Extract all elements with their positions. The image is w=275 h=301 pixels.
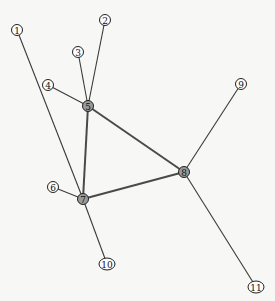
- node-label: 9: [238, 80, 244, 90]
- edge-3-5: [78, 52, 88, 106]
- node-label: 2: [102, 16, 108, 26]
- node-8: 8: [179, 167, 190, 178]
- node-label: 10: [101, 260, 113, 270]
- edge-5-7: [83, 106, 88, 199]
- node-11: 11: [248, 281, 264, 293]
- node-10: 10: [99, 258, 115, 270]
- node-label: 4: [45, 81, 51, 91]
- network-graph: 1234567891011: [0, 0, 275, 301]
- edge-8-9: [184, 84, 241, 172]
- node-layer: 1234567891011: [12, 15, 265, 294]
- node-1: 1: [12, 25, 23, 36]
- edge-layer: [17, 20, 256, 287]
- node-2: 2: [100, 15, 111, 26]
- node-9: 9: [236, 79, 247, 90]
- edge-2-5: [88, 20, 105, 106]
- edge-4-5: [48, 85, 88, 106]
- node-label: 7: [80, 195, 86, 205]
- node-label: 3: [75, 48, 81, 58]
- node-7: 7: [78, 194, 89, 205]
- node-label: 8: [181, 168, 187, 178]
- node-label: 11: [250, 283, 261, 293]
- node-6: 6: [48, 182, 59, 193]
- node-label: 6: [50, 183, 56, 193]
- node-label: 1: [14, 26, 20, 36]
- edge-5-8: [88, 106, 184, 172]
- edge-7-10: [83, 199, 107, 264]
- edge-8-11: [184, 172, 256, 287]
- edge-7-8: [83, 172, 184, 199]
- node-5: 5: [83, 101, 94, 112]
- node-3: 3: [73, 47, 84, 58]
- node-4: 4: [43, 80, 54, 91]
- node-label: 5: [85, 102, 91, 112]
